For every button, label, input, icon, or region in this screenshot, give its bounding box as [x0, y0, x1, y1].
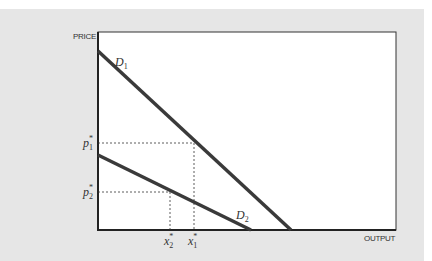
p2-star-label: p2*: [83, 183, 93, 201]
demand-diagram: [0, 0, 432, 261]
p1-star-label: p1*: [83, 134, 93, 152]
x1-star-label: x1*: [188, 232, 197, 250]
y-axis-label: PRICE: [73, 32, 96, 41]
x-axis-label: OUTPUT: [364, 234, 395, 243]
x2-star-label: x2*: [164, 232, 173, 250]
plot-area: [98, 32, 396, 230]
d1-label: D1: [115, 55, 128, 71]
d2-label: D2: [236, 208, 249, 224]
